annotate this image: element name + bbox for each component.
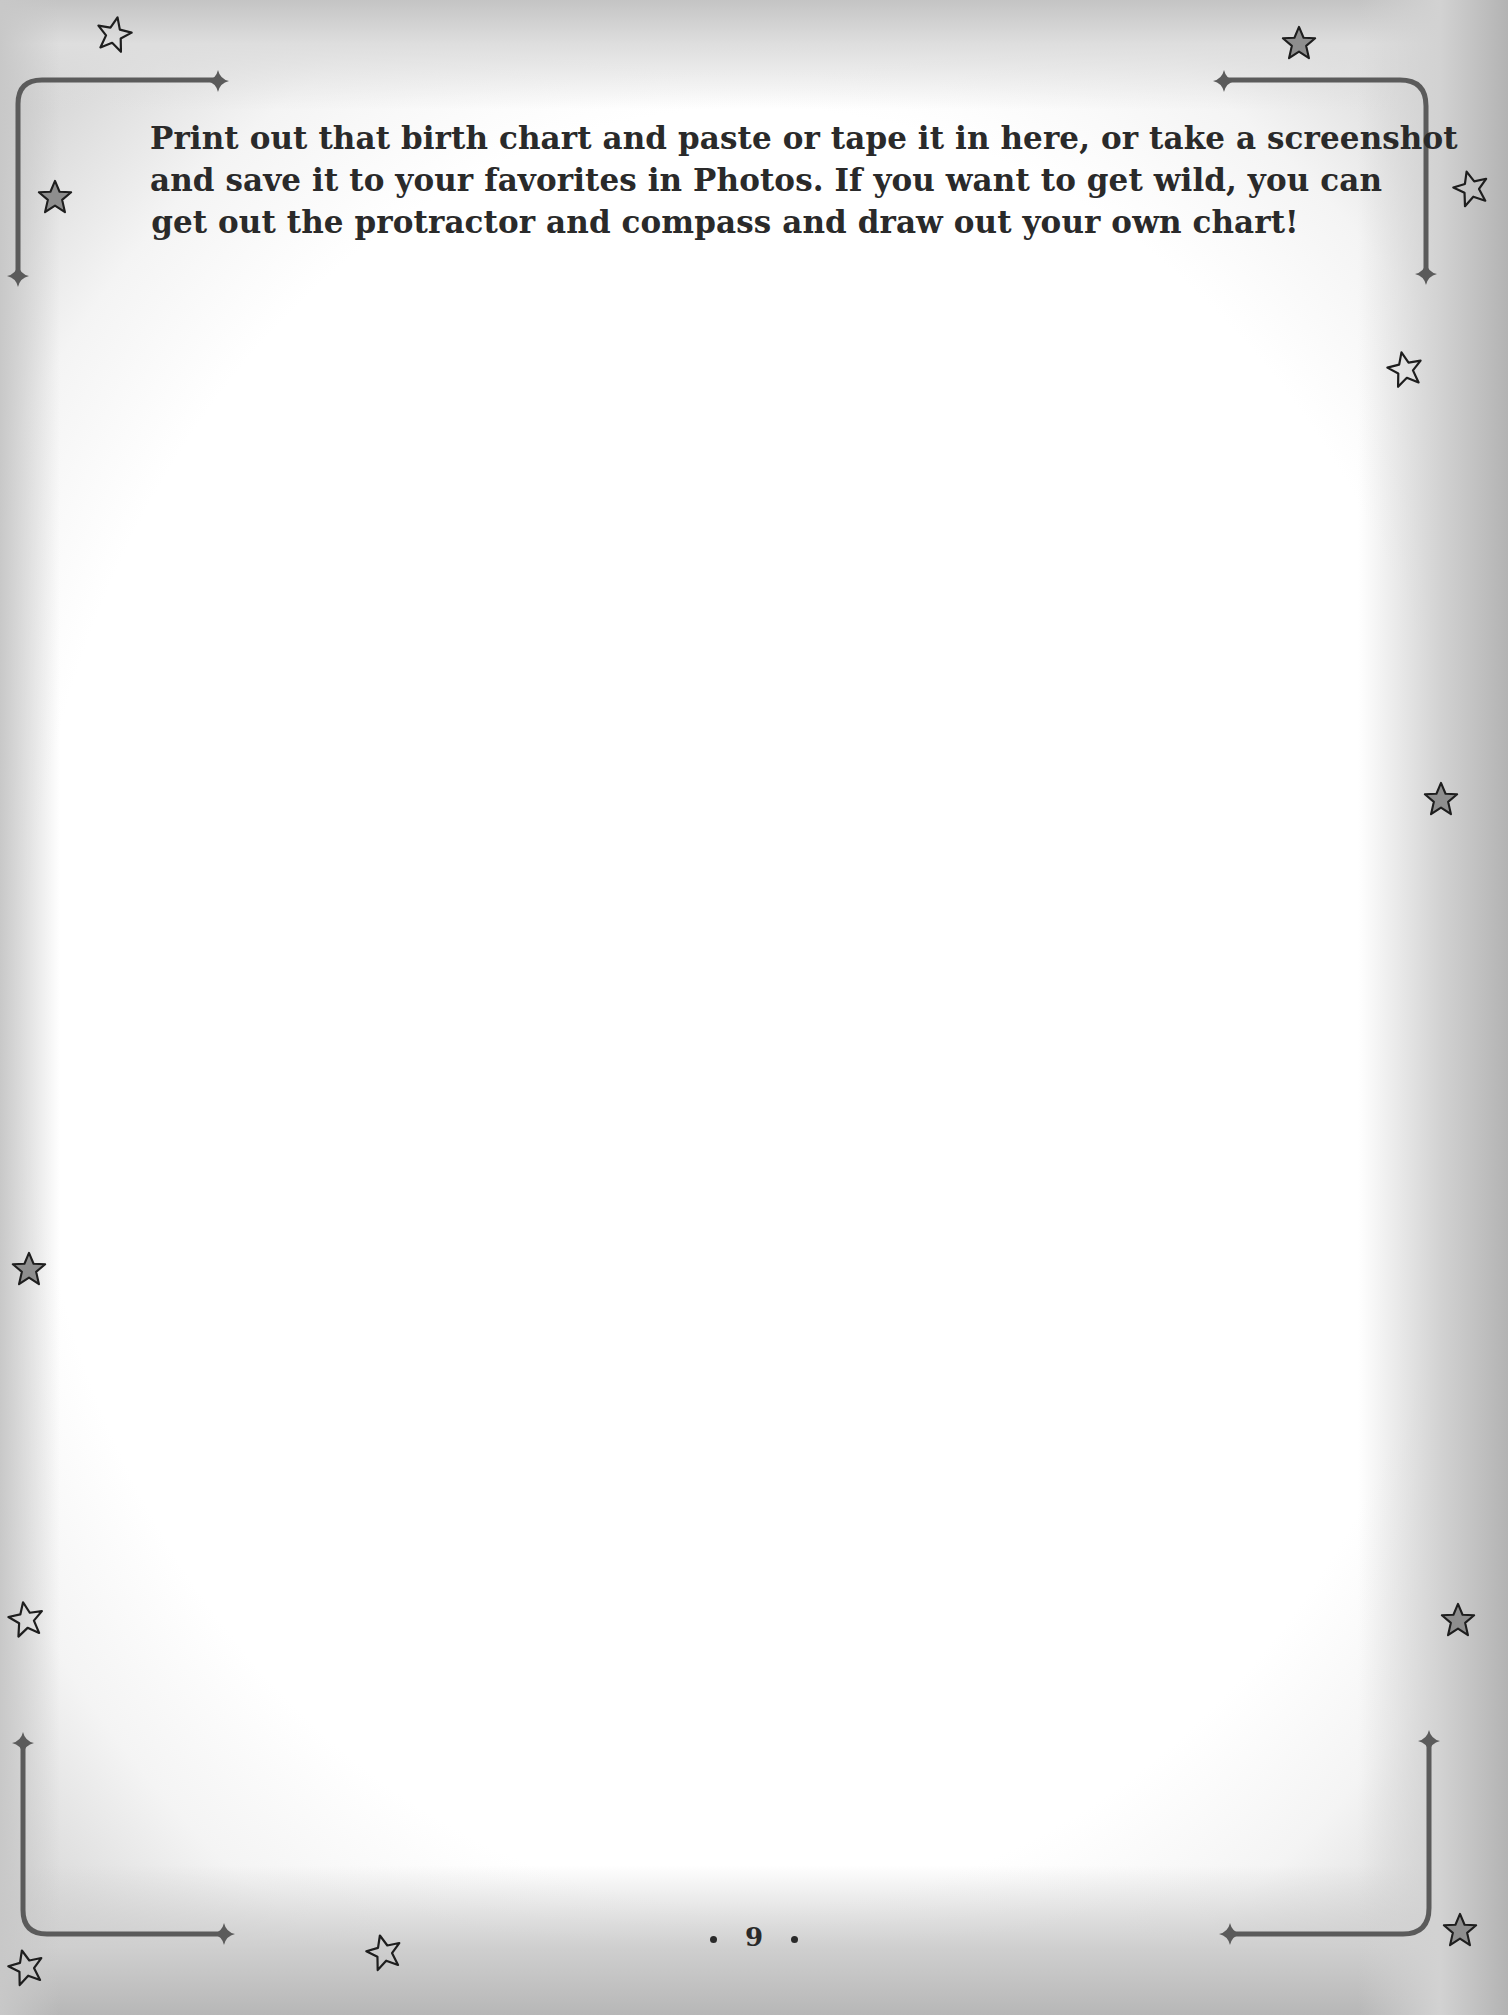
star-icon [1283,27,1315,58]
birth-chart-paste-area [80,290,1400,1890]
star-icon [94,14,134,53]
star-icon [1425,783,1457,814]
star-icon [6,1599,45,1637]
star-icon [1450,167,1491,208]
page-number-footer: 9 [654,1922,854,1952]
instructions-text: Print out that birth chart and paste or … [150,117,1300,243]
star-icon [1442,1604,1474,1635]
star-icon [13,1253,45,1284]
bullet-right [791,1936,798,1943]
page-number: 9 [745,1922,763,1952]
star-icon [39,181,71,212]
star-icon [1444,1914,1476,1945]
star-icon [5,1946,46,1986]
instructions-line-1: Print out that birth chart and paste or … [150,117,1300,159]
bullet-left [710,1936,717,1943]
instructions-line-2: and save it to your favorites in Photos.… [150,159,1300,201]
book-page: Print out that birth chart and paste or … [0,0,1508,2015]
star-icon [363,1931,404,1971]
instructions-line-3: get out the protractor and compass and d… [150,201,1300,243]
